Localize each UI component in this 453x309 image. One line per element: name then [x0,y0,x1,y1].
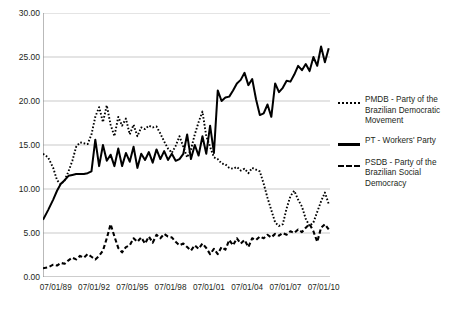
x-tick-label: 07/01/98 [155,283,187,292]
legend-item-psdb: PSDB - Party of the Brazilian Social Dem… [338,158,451,190]
legend-label-psdb: PSDB - Party of the Brazilian Social Dem… [365,158,451,190]
legend-swatch-dotted-icon [338,98,360,108]
legend-label-pt: PT - Workers' Party [365,136,436,147]
series-line-psdb [43,224,329,268]
legend-swatch-dashed-icon [338,161,360,171]
legend-item-pmdb: PMDB - Party of the Brazilian Democratic… [338,95,451,127]
x-tick-label: 07/01/95 [116,283,148,292]
series-line-pt [43,46,329,219]
x-tick-label: 07/01/04 [231,283,263,292]
chart-legend: PMDB - Party of the Brazilian Democratic… [338,95,451,198]
x-tick-label: 07/01/01 [193,283,225,292]
legend-item-pt: PT - Workers' Party [338,136,451,149]
x-tick-label: 07/01/89 [40,283,72,292]
x-tick-label: 07/01/92 [78,283,110,292]
series-line-pmdb [43,105,329,226]
x-tick-label: 07/01/07 [269,283,301,292]
chart-figure: 0.005.0010.0015.0020.0025.0030.00 07/01/… [0,0,453,309]
x-tick-label: 07/01/10 [308,283,340,292]
plot-area [43,13,330,277]
legend-label-pmdb: PMDB - Party of the Brazilian Democratic… [365,95,451,127]
legend-swatch-solid-icon [338,139,360,149]
